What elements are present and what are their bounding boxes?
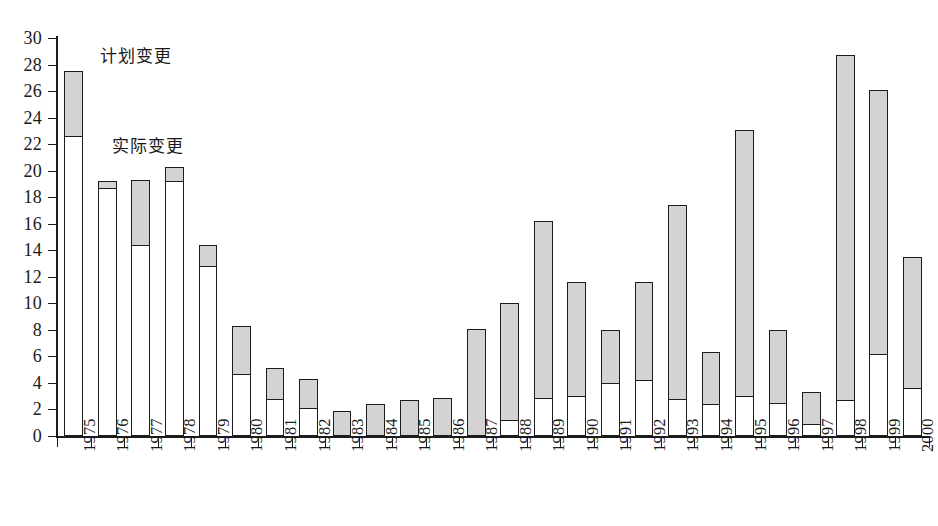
x-axis-label: 1981 <box>283 418 300 452</box>
bar-group[interactable] <box>266 38 285 436</box>
bar-group[interactable] <box>64 38 83 436</box>
x-axis-label: 1979 <box>216 418 233 452</box>
bar-group[interactable] <box>433 38 452 436</box>
bar-segment-planned[interactable] <box>500 303 519 436</box>
x-axis-label: 1999 <box>887 418 904 452</box>
bar-group[interactable] <box>702 38 721 436</box>
bar-group[interactable] <box>836 38 855 436</box>
bar-group[interactable] <box>467 38 486 436</box>
y-axis-label: 30 <box>0 29 42 47</box>
y-axis-tick <box>48 303 57 304</box>
bar-group[interactable] <box>601 38 620 436</box>
bar-group[interactable] <box>98 38 117 436</box>
y-axis-tick <box>48 38 57 39</box>
bar-segment-actual[interactable] <box>199 266 218 436</box>
plot-area <box>57 38 929 436</box>
x-axis-label: 1992 <box>652 418 669 452</box>
x-axis-label: 1980 <box>249 418 266 452</box>
x-axis-label: 1987 <box>484 418 501 452</box>
y-axis-label: 6 <box>0 347 42 365</box>
y-axis-label: 10 <box>0 294 42 312</box>
y-axis-tick <box>48 383 57 384</box>
y-axis-label: 24 <box>0 109 42 127</box>
y-axis-tick <box>48 436 57 437</box>
y-axis-tick <box>48 224 57 225</box>
x-axis-label: 1984 <box>384 418 401 452</box>
x-axis-label: 1994 <box>719 418 736 452</box>
bar-group[interactable] <box>735 38 754 436</box>
x-axis-label: 1988 <box>518 418 535 452</box>
y-axis-tick <box>48 330 57 331</box>
y-axis-label: 18 <box>0 188 42 206</box>
y-axis-label: 2 <box>0 400 42 418</box>
x-axis-label: 1995 <box>753 418 770 452</box>
y-axis-tick <box>48 65 57 66</box>
bar-group[interactable] <box>333 38 352 436</box>
bar-segment-actual[interactable] <box>131 245 150 436</box>
x-axis-label: 1982 <box>317 418 334 452</box>
x-axis-label: 1985 <box>417 418 434 452</box>
legend-label-planned: 计划变更 <box>100 48 172 65</box>
y-axis-label: 12 <box>0 268 42 286</box>
x-axis-label: 1989 <box>551 418 568 452</box>
x-axis-label: 1978 <box>182 418 199 452</box>
bar-group[interactable] <box>567 38 586 436</box>
y-axis-label: 14 <box>0 241 42 259</box>
y-axis-tick <box>48 144 57 145</box>
y-axis-tick <box>48 250 57 251</box>
x-axis-label: 1998 <box>853 418 870 452</box>
bar-segment-actual[interactable] <box>165 181 184 436</box>
y-axis-label: 8 <box>0 321 42 339</box>
x-axis-label: 1996 <box>786 418 803 452</box>
bar-segment-actual[interactable] <box>64 136 83 436</box>
x-axis-label: 1997 <box>820 418 837 452</box>
x-axis-label: 1991 <box>618 418 635 452</box>
bar-group[interactable] <box>903 38 922 436</box>
y-axis-label: 4 <box>0 374 42 392</box>
y-axis-label: 28 <box>0 56 42 74</box>
y-axis-tick <box>48 91 57 92</box>
x-axis-label: 1977 <box>149 418 166 452</box>
bar-segment-planned[interactable] <box>836 55 855 436</box>
x-axis-label: 2000 <box>920 418 937 452</box>
bar-segment-planned[interactable] <box>735 130 754 436</box>
y-axis-label: 20 <box>0 162 42 180</box>
bar-segment-actual[interactable] <box>98 188 117 436</box>
y-axis-label: 22 <box>0 135 42 153</box>
x-axis-label: 1975 <box>82 418 99 452</box>
y-axis-tick <box>48 171 57 172</box>
x-axis-label: 1983 <box>350 418 367 452</box>
x-axis-label: 1976 <box>115 418 132 452</box>
bar-group[interactable] <box>869 38 888 436</box>
y-axis-label: 26 <box>0 82 42 100</box>
y-axis-tick <box>48 277 57 278</box>
bar-chart: 024681012141618202224262830 197519761977… <box>0 0 938 526</box>
bar-group[interactable] <box>165 38 184 436</box>
bar-group[interactable] <box>131 38 150 436</box>
bar-group[interactable] <box>400 38 419 436</box>
bar-group[interactable] <box>232 38 251 436</box>
bar-group[interactable] <box>769 38 788 436</box>
y-axis-tick <box>48 356 57 357</box>
x-axis-tick <box>57 438 58 447</box>
x-axis-label: 1990 <box>585 418 602 452</box>
x-axis-label: 1993 <box>685 418 702 452</box>
y-axis-tick <box>48 118 57 119</box>
bar-group[interactable] <box>500 38 519 436</box>
bar-group[interactable] <box>199 38 218 436</box>
bar-group[interactable] <box>534 38 553 436</box>
y-axis-label: 0 <box>0 427 42 445</box>
y-axis-tick <box>48 197 57 198</box>
legend-label-actual: 实际变更 <box>112 138 184 155</box>
bar-group[interactable] <box>802 38 821 436</box>
bar-group[interactable] <box>668 38 687 436</box>
y-axis-label: 16 <box>0 215 42 233</box>
bar-group[interactable] <box>299 38 318 436</box>
bar-group[interactable] <box>635 38 654 436</box>
y-axis-tick <box>48 409 57 410</box>
bar-group[interactable] <box>366 38 385 436</box>
x-axis-label: 1986 <box>451 418 468 452</box>
